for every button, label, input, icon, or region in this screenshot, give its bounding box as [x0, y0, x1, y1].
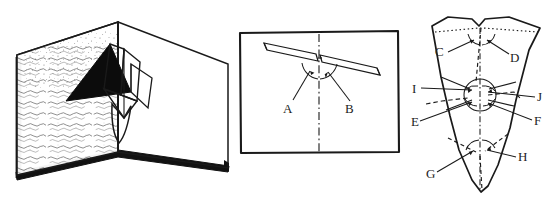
leader-line-b: [328, 72, 350, 101]
fold-line-bottom-left: [448, 138, 476, 152]
angle-label-a: A: [283, 101, 293, 116]
angle-arc-h: [482, 140, 495, 148]
leader-line-c: [448, 40, 474, 52]
leader-line-i: [421, 88, 472, 90]
leader-line-d: [487, 40, 509, 54]
angle-label-f: F: [534, 113, 541, 128]
angle-label-h: H: [518, 149, 527, 164]
panel-flat-pattern: C D I J E F: [410, 0, 549, 200]
angle-arc-b: [320, 64, 337, 79]
popup-right-wing-shaded: [131, 64, 152, 108]
book-drawing: [0, 0, 232, 200]
angle-label-e: E: [411, 114, 419, 129]
panel-front-elevation: A B: [232, 0, 410, 200]
angle-arc-c: [468, 34, 480, 45]
wing-right: [320, 55, 380, 75]
panel-open-book-popup: [0, 0, 232, 200]
angle-label-b: B: [345, 101, 354, 116]
wing-left: [264, 43, 318, 61]
flat-pattern-drawing: C D I J E F: [410, 0, 549, 200]
arrowhead-i: [468, 89, 472, 93]
angle-label-i: I: [412, 81, 416, 96]
leader-line-e: [420, 102, 472, 121]
figure-root: A B: [0, 0, 549, 200]
front-elevation-drawing: A B: [232, 0, 410, 200]
angle-label-g: G: [426, 166, 435, 181]
angle-label-j: J: [537, 89, 542, 104]
arrowhead-a: [310, 71, 314, 75]
leader-line-a: [293, 71, 310, 100]
angle-label-d: D: [510, 50, 519, 65]
fold-line-top-dotted: [435, 28, 538, 32]
angle-label-c: C: [435, 44, 444, 59]
